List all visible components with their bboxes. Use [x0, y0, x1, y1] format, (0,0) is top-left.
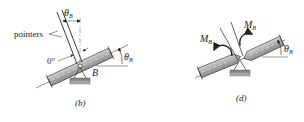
- support-b-label: B: [92, 67, 98, 78]
- figure-d: MB MB θB (d): [195, 19, 293, 103]
- pointers-leader-2: [49, 34, 62, 37]
- moment-right-arrow: [240, 33, 252, 46]
- pointer-d-1: [220, 28, 238, 60]
- moment-right-label: MB: [243, 19, 256, 31]
- zero-degree-label: 0°: [47, 56, 56, 66]
- zero-arrow-left: [58, 55, 73, 61]
- moment-left-arrow: [214, 45, 232, 56]
- caption-d: (d): [236, 93, 247, 103]
- theta-b-right-label: θB: [124, 51, 133, 63]
- diagram-canvas: θB pointers 0° θB B (b): [0, 0, 304, 122]
- zero-arrow-right: [83, 48, 88, 51]
- pointers-label: pointers: [14, 29, 43, 39]
- theta-b-right-arc: [120, 50, 122, 64]
- caption-b: (b): [75, 98, 86, 108]
- figure-b: θB pointers 0° θB B (b): [14, 7, 133, 108]
- theta-d-label: θB: [284, 43, 293, 55]
- beam-d-right: [241, 34, 285, 64]
- pointer-line-1: [57, 12, 77, 64]
- pointers-leader-1: [49, 31, 58, 34]
- moment-left-label: MB: [199, 33, 212, 45]
- theta-b-top-label: θB: [64, 7, 73, 19]
